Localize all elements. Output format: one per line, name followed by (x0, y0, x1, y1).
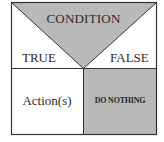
true-branch-label: TRUE (22, 51, 56, 64)
selection-structogram: CONDITION TRUE FALSE Action(s) DO NOTHIN… (0, 0, 164, 142)
false-branch-content: DO NOTHING (84, 97, 156, 105)
false-branch-label: FALSE (110, 51, 149, 64)
true-branch-content: Action(s) (11, 94, 83, 107)
condition-label: CONDITION (11, 12, 156, 25)
